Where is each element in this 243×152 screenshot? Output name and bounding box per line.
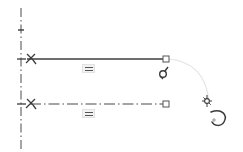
sketch-vector-layer[interactable] bbox=[0, 0, 243, 152]
drag-curl-icon[interactable] bbox=[211, 111, 225, 126]
endpoint-upper-right[interactable] bbox=[163, 56, 169, 62]
endpoint-lower-right[interactable] bbox=[163, 101, 169, 107]
cursor-arrow-with-curl-icon[interactable] bbox=[202, 95, 212, 107]
curl-pivot-dot bbox=[213, 119, 215, 121]
equal-constraint-lower[interactable]: = bbox=[82, 109, 95, 118]
equals-icon-bar-top bbox=[85, 67, 93, 68]
equals-icon-bar-bottom bbox=[85, 115, 93, 116]
equals-icon-bar-top bbox=[85, 112, 93, 113]
sketch-canvas[interactable]: Parametric sketch with two horizontal li… bbox=[0, 0, 243, 152]
drag-guide-arc bbox=[168, 59, 209, 103]
rotate-grip-icon[interactable] bbox=[160, 67, 168, 79]
equals-icon-bar-bottom bbox=[85, 70, 93, 71]
equal-constraint-upper[interactable]: = bbox=[82, 64, 95, 73]
